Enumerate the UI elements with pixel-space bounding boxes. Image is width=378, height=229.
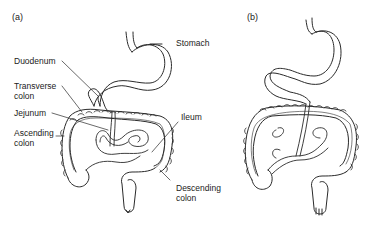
label-ascending-colon: Ascending colon bbox=[14, 128, 54, 148]
stomach-shape bbox=[94, 44, 171, 106]
panel-a-label: (a) bbox=[12, 12, 23, 22]
label-jejunum: Jejunum bbox=[14, 108, 46, 118]
label-stomach: Stomach bbox=[176, 38, 210, 48]
gut-anatomy-figure: (a) (b) Duodenum Transverse colon Jejunu… bbox=[0, 0, 378, 229]
label-descending-colon: Descending colon bbox=[176, 183, 221, 203]
label-duodenum: Duodenum bbox=[14, 56, 56, 66]
panel-b-drawing bbox=[244, 18, 359, 215]
panel-a-drawing bbox=[52, 32, 178, 213]
panel-b-label: (b) bbox=[247, 12, 258, 22]
label-ileum: Ileum bbox=[181, 112, 202, 122]
label-transverse-colon: Transverse colon bbox=[14, 81, 56, 101]
